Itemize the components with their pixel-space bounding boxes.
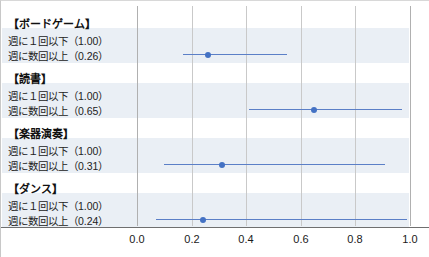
forest-plot: 0.00.20.40.60.81.0【ボードゲーム】週に１回以下（1.00）週に…	[0, 0, 429, 257]
x-tick-label-0.4: 0.4	[238, 233, 253, 245]
row-label-2-2: 週に数回以上（0.65）	[8, 103, 108, 118]
ci-line-2	[249, 109, 402, 110]
ci-line-3	[164, 164, 385, 165]
group-header-1: 【ボードゲーム】	[8, 15, 96, 31]
row-label-2-1: 週に１回以下（1.00）	[8, 88, 108, 103]
x-tick-label-0.0: 0.0	[129, 233, 144, 245]
gridline-0.0	[137, 6, 138, 226]
x-tick-label-1.0: 1.0	[402, 233, 417, 245]
gridline-0.4	[246, 6, 247, 226]
gridline-1.0	[410, 6, 411, 226]
x-tick-label-0.6: 0.6	[293, 233, 308, 245]
x-axis-line	[1, 227, 429, 228]
row-label-3-1: 週に１回以下（1.00）	[8, 143, 108, 158]
row-label-1-1: 週に１回以下（1.00）	[8, 33, 108, 48]
group-header-3: 【楽器演奏】	[8, 125, 74, 141]
x-tick-label-0.2: 0.2	[184, 233, 199, 245]
row-label-3-2: 週に数回以上（0.31）	[8, 158, 108, 173]
gridline-0.2	[192, 6, 193, 226]
ci-line-1	[183, 54, 287, 55]
gridline-0.8	[355, 6, 356, 226]
group-header-2: 【読書】	[8, 70, 52, 86]
row-label-4-2: 週に数回以上（0.24）	[8, 213, 108, 228]
estimate-point-2	[311, 107, 317, 113]
gridline-0.6	[301, 6, 302, 226]
estimate-point-1	[205, 52, 211, 58]
group-header-4: 【ダンス】	[8, 180, 63, 196]
row-label-4-1: 週に１回以下（1.00）	[8, 198, 108, 213]
estimate-point-4	[200, 217, 206, 223]
x-tick-label-0.8: 0.8	[347, 233, 362, 245]
row-label-1-2: 週に数回以上（0.26）	[8, 48, 108, 63]
ci-line-4	[156, 219, 407, 220]
estimate-point-3	[219, 162, 225, 168]
